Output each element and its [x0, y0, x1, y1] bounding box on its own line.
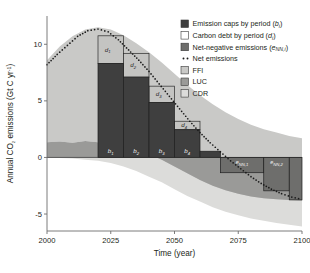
net-emissions-dot: [225, 155, 227, 157]
net-emissions-dot: [271, 188, 273, 190]
net-emissions-dot: [107, 31, 109, 33]
net-emissions-dot: [72, 40, 74, 42]
x-tick-label: 2000: [39, 236, 56, 245]
net-emissions-dot: [240, 168, 242, 170]
net-emissions-dot: [263, 184, 265, 186]
net-emissions-dot: [187, 118, 189, 120]
net-emissions-dot: [212, 144, 214, 146]
net-emissions-dot: [245, 172, 247, 174]
net-emissions-dot: [217, 149, 219, 151]
x-tick-label: 2075: [230, 236, 247, 245]
net-emissions-dot: [82, 33, 84, 35]
net-emissions-dot: [130, 51, 132, 53]
net-emissions-dot: [69, 42, 71, 44]
net-emissions-dot: [112, 35, 114, 37]
net-emissions-dot: [56, 54, 58, 56]
net-emissions-dot: [278, 192, 280, 194]
net-emissions-dot: [162, 88, 164, 90]
net-emissions-dot: [136, 57, 138, 59]
net-emissions-dot: [61, 49, 63, 51]
net-emissions-dot: [173, 100, 175, 102]
net-emissions-dot: [138, 59, 140, 61]
net-emissions-dot: [284, 194, 286, 196]
net-emissions-dot: [298, 198, 300, 200]
net-emissions-dot: [128, 49, 130, 51]
x-axis-title: Time (year): [154, 249, 196, 258]
net-emissions-dot: [140, 62, 142, 64]
net-emissions-dot: [203, 136, 205, 138]
net-emissions-dot: [288, 195, 290, 197]
net-emissions-dot: [54, 56, 56, 58]
net-emissions-dot: [255, 179, 257, 181]
legend-swatch-cdr: [181, 90, 189, 98]
legend-swatch-cap: [181, 20, 189, 28]
net-emissions-dot: [230, 160, 232, 162]
net-emissions-dot: [171, 98, 173, 100]
net-emissions-dot: [185, 115, 187, 117]
net-emissions-dot: [183, 113, 185, 115]
net-emissions-dot: [52, 58, 54, 60]
net-emissions-dot: [144, 66, 146, 68]
net-emissions-dot: [160, 86, 162, 88]
net-emissions-dot: [199, 132, 201, 134]
y-tick-label: 5: [38, 96, 42, 105]
legend-dot-icon: [183, 58, 185, 60]
legend-label-cdr: CDR: [193, 89, 209, 98]
net-emissions-dot: [59, 51, 61, 53]
net-emissions-dot: [115, 37, 117, 39]
net-emissions-dot: [164, 91, 166, 93]
net-emissions-dot: [177, 105, 179, 107]
net-emissions-dot: [110, 33, 112, 35]
net-emissions-dot: [281, 193, 283, 195]
x-tick-label: 2100: [294, 236, 310, 245]
x-tick-label: 2025: [102, 236, 119, 245]
net-emissions-dot: [148, 71, 150, 73]
net-emissions-dot: [258, 181, 260, 183]
net-emissions-dot: [276, 191, 278, 193]
legend-swatch-luc: [181, 78, 189, 86]
net-emissions-dot: [195, 127, 197, 129]
net-emissions-dot: [294, 197, 296, 199]
net-emissions-dot: [118, 39, 120, 41]
carbon-debt-bar: [149, 86, 175, 102]
y-tick-label: -5: [35, 210, 42, 219]
net-emissions-dot: [79, 34, 81, 36]
net-emissions-dot: [134, 55, 136, 57]
net-emissions-dot: [193, 125, 195, 127]
net-emissions-dot: [97, 28, 99, 30]
net-emissions-dot: [152, 76, 154, 78]
net-emissions-dot: [214, 146, 216, 148]
figure-container: b1b2b3b4d1d2d3d4eNN,1eNN,21050-520002025…: [0, 0, 310, 273]
y-axis-title: Annual CO2 emissions (Gt C yr-1): [6, 63, 16, 183]
y-tick-label: 10: [34, 40, 42, 49]
net-emissions-dot: [189, 120, 191, 122]
net-emissions-dot: [197, 129, 199, 131]
net-emissions-dot: [167, 93, 169, 95]
net-emissions-dot: [191, 123, 193, 125]
legend-label-net: Net emissions: [193, 54, 239, 63]
net-emissions-dot: [126, 47, 128, 49]
net-emissions-dot: [235, 164, 237, 166]
net-emissions-dot: [84, 31, 86, 33]
net-emissions-dot: [237, 166, 239, 168]
net-emissions-dot: [222, 153, 224, 155]
net-emissions-dot: [101, 29, 103, 31]
legend-dot-icon: [187, 58, 189, 60]
net-negative-bar: [289, 157, 302, 199]
net-emissions-dot: [77, 36, 79, 38]
net-emissions-dot: [250, 176, 252, 178]
net-emissions-dot: [120, 41, 122, 43]
net-emissions-dot: [90, 29, 92, 31]
net-emissions-dot: [64, 47, 66, 49]
net-emissions-dot: [201, 134, 203, 136]
y-tick-label: 0: [38, 153, 42, 162]
net-emissions-dot: [132, 53, 134, 55]
net-emissions-dot: [205, 138, 207, 140]
net-emissions-dot: [142, 64, 144, 66]
net-emissions-dot: [227, 158, 229, 160]
net-emissions-dot: [248, 174, 250, 176]
net-emissions-dot: [220, 151, 222, 153]
x-tick-label: 2050: [166, 236, 183, 245]
net-emissions-dot: [291, 196, 293, 198]
net-emissions-dot: [122, 43, 124, 45]
